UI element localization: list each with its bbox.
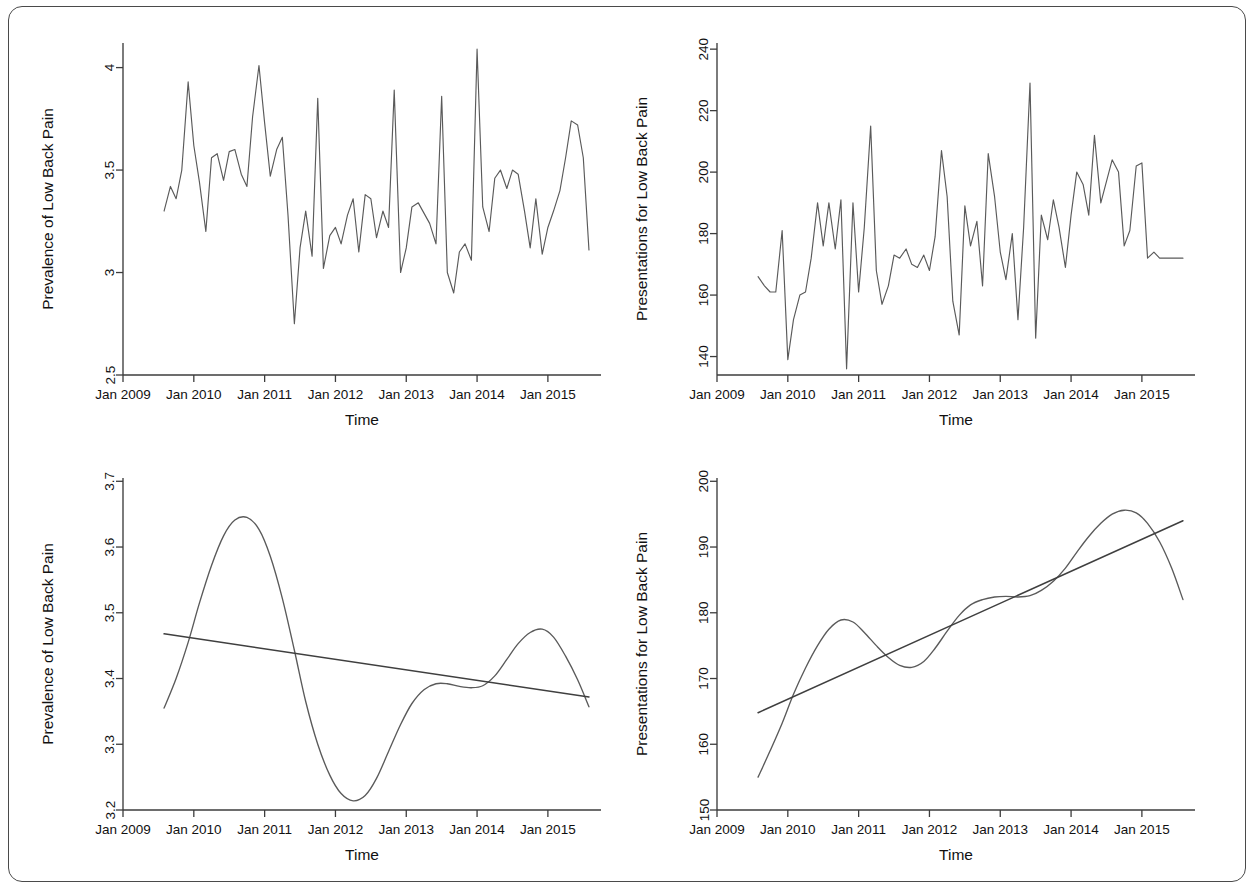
x-tick-label: Jan 2009: [95, 822, 151, 837]
x-tick-label: Jan 2015: [520, 822, 576, 837]
y-tick-label: 160: [697, 733, 712, 756]
x-tick-label: Jan 2013: [378, 822, 434, 837]
y-tick-label: 3.3: [103, 735, 118, 754]
x-tick-label: Jan 2010: [166, 387, 222, 402]
x-tick-label: Jan 2012: [902, 822, 958, 837]
y-tick-label: 150: [697, 799, 712, 822]
linear-trend-line: [164, 634, 589, 697]
chart-svg: 140160180200220240Jan 2009Jan 2010Jan 20…: [621, 17, 1213, 449]
chart-svg: 3.23.33.43.53.63.7Jan 2009Jan 2010Jan 20…: [27, 452, 619, 884]
x-tick-label: Jan 2014: [449, 822, 505, 837]
figure-frame: 2.533.54Jan 2009Jan 2010Jan 2011Jan 2012…: [8, 6, 1246, 882]
x-axis-title: Time: [939, 846, 973, 863]
x-tick-label: Jan 2012: [308, 822, 364, 837]
y-axis-title: Prevalence of Low Back Pain: [39, 108, 56, 310]
x-axis-title: Time: [345, 411, 379, 428]
y-tick-label: 4: [103, 63, 118, 71]
y-tick-label: 140: [697, 345, 712, 368]
chart-svg: 150160170180190200Jan 2009Jan 2010Jan 20…: [621, 452, 1213, 884]
smoothed-trend-line: [164, 517, 589, 801]
y-tick-label: 200: [697, 161, 712, 184]
y-tick-label: 3.7: [103, 472, 118, 491]
x-tick-label: Jan 2012: [308, 387, 364, 402]
x-tick-label: Jan 2011: [831, 822, 886, 837]
y-axis-title: Prevalence of Low Back Pain: [39, 543, 56, 745]
y-tick-label: 180: [697, 602, 712, 625]
x-tick-label: Jan 2014: [449, 387, 505, 402]
x-tick-label: Jan 2010: [166, 822, 222, 837]
y-tick-label: 190: [697, 536, 712, 559]
x-tick-label: Jan 2011: [237, 387, 292, 402]
time-series-line: [164, 49, 589, 324]
y-tick-label: 170: [697, 667, 712, 690]
y-axis-title: Presentations for Low Back Pain: [633, 97, 650, 321]
chart-panel-bottom-left: 3.23.33.43.53.63.7Jan 2009Jan 2010Jan 20…: [27, 452, 619, 884]
x-axis-title: Time: [939, 411, 973, 428]
chart-panel-bottom-right: 150160170180190200Jan 2009Jan 2010Jan 20…: [621, 452, 1213, 884]
x-tick-label: Jan 2015: [1114, 822, 1170, 837]
y-tick-label: 3.6: [103, 538, 118, 557]
x-tick-label: Jan 2012: [902, 387, 958, 402]
time-series-line: [758, 83, 1183, 369]
x-tick-label: Jan 2009: [95, 387, 151, 402]
y-tick-label: 160: [697, 284, 712, 307]
y-tick-label: 3.5: [103, 603, 118, 622]
x-tick-label: Jan 2014: [1043, 387, 1099, 402]
y-tick-label: 220: [697, 99, 712, 122]
x-tick-label: Jan 2009: [689, 822, 745, 837]
x-tick-label: Jan 2014: [1043, 822, 1099, 837]
y-tick-label: 200: [697, 470, 712, 493]
x-tick-label: Jan 2010: [760, 387, 816, 402]
x-tick-label: Jan 2011: [831, 387, 886, 402]
chart-panel-top-left: 2.533.54Jan 2009Jan 2010Jan 2011Jan 2012…: [27, 17, 619, 449]
y-tick-label: 3.2: [103, 801, 118, 820]
y-tick-label: 3: [103, 269, 118, 277]
chart-svg: 2.533.54Jan 2009Jan 2010Jan 2011Jan 2012…: [27, 17, 619, 449]
linear-trend-line: [758, 521, 1183, 713]
x-tick-label: Jan 2011: [237, 822, 292, 837]
y-tick-label: 3.4: [103, 669, 118, 688]
x-tick-label: Jan 2015: [520, 387, 576, 402]
x-tick-label: Jan 2009: [689, 387, 745, 402]
y-tick-label: 3.5: [103, 161, 118, 180]
y-tick-label: 240: [697, 38, 712, 61]
y-tick-label: 180: [697, 222, 712, 245]
x-tick-label: Jan 2015: [1114, 387, 1170, 402]
y-axis-title: Presentations for Low Back Pain: [633, 532, 650, 756]
x-tick-label: Jan 2013: [972, 822, 1028, 837]
x-tick-label: Jan 2010: [760, 822, 816, 837]
x-tick-label: Jan 2013: [972, 387, 1028, 402]
x-axis-title: Time: [345, 846, 379, 863]
x-tick-label: Jan 2013: [378, 387, 434, 402]
y-tick-label: 2.5: [103, 366, 118, 385]
chart-panel-top-right: 140160180200220240Jan 2009Jan 2010Jan 20…: [621, 17, 1213, 449]
